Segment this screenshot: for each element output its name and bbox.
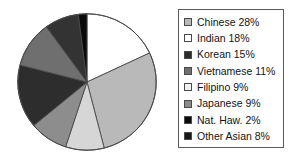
legend-swatch-indian (184, 34, 192, 42)
legend-label-japanese: Japanese 9% (197, 98, 261, 109)
pie-chart-plot (14, 12, 160, 152)
pie-chart-figure: Chinese 28% Indian 18% Korean 15% Vietna… (0, 0, 293, 158)
legend-swatch-vietnamese (184, 67, 192, 75)
legend-item-other-asian[interactable]: Other Asian 8% (184, 128, 283, 144)
legend-label-filipino: Filipino 9% (197, 82, 248, 93)
pie-slice-group (18, 14, 156, 150)
legend-item-nat-haw[interactable]: Nat. Haw. 2% (184, 112, 283, 128)
legend-swatch-other-asian (184, 132, 192, 140)
legend-item-chinese[interactable]: Chinese 28% (184, 14, 283, 30)
legend-item-vietnamese[interactable]: Vietnamese 11% (184, 63, 283, 79)
legend-item-korean[interactable]: Korean 15% (184, 47, 283, 63)
legend-item-japanese[interactable]: Japanese 9% (184, 95, 283, 111)
legend-swatch-nat-haw (184, 116, 192, 124)
legend-label-korean: Korean 15% (197, 49, 255, 60)
legend-label-vietnamese: Vietnamese 11% (197, 66, 275, 77)
legend-swatch-chinese (184, 18, 192, 26)
legend-swatch-korean (184, 51, 192, 59)
legend-label-chinese: Chinese 28% (197, 17, 259, 28)
legend-swatch-japanese (184, 100, 192, 108)
legend-item-filipino[interactable]: Filipino 9% (184, 79, 283, 95)
legend-label-indian: Indian 18% (197, 33, 250, 44)
legend: Chinese 28% Indian 18% Korean 15% Vietna… (178, 9, 284, 148)
legend-label-nat-haw: Nat. Haw. 2% (197, 115, 261, 126)
legend-swatch-filipino (184, 83, 192, 91)
legend-item-indian[interactable]: Indian 18% (184, 30, 283, 46)
legend-label-other-asian: Other Asian 8% (197, 131, 270, 142)
pie-svg (14, 12, 160, 152)
